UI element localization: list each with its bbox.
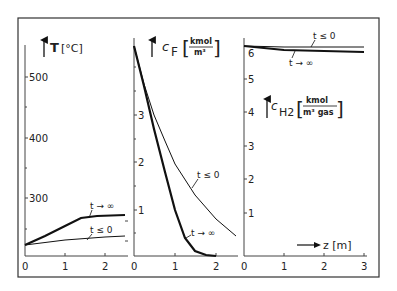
panel-hydrogen-concentration: 6 5 4 3 2 1 0 1 2 3 c H2 [ kmol m³ gas ]… [241,31,367,272]
y-tick-label: 3 [138,110,144,121]
x-tick-label: 2 [213,261,219,272]
label-t-zero: t ≤ 0 [197,170,220,180]
bracket-right: ] [213,36,221,60]
x-tick-label: 3 [361,261,367,272]
y-tick-label: 400 [29,133,48,144]
y-tick-label: 1 [138,205,144,216]
x-tick-label: 1 [62,261,68,272]
x-tick-label: 1 [281,261,287,272]
x-tick-label: 0 [241,261,247,272]
y-tick-label: 3 [248,141,254,152]
y-axis-unit-numerator: kmol [306,96,328,105]
y-tick-label: 6 [248,48,254,59]
y-tick-label: 5 [248,74,254,85]
y-axis-unit-denominator: m³ gas [303,108,334,117]
figure: 500 400 300 0 1 2 T [°C] t → ∞ t ≤ 0 [0,0,397,291]
x-tick-label: 0 [22,261,28,272]
bracket-left: [ [182,36,190,60]
label-t-infinity: t → ∞ [289,58,313,68]
y-tick-label: 300 [29,193,48,204]
label-t-zero: t ≤ 0 [313,31,336,41]
y-axis-subscript: F [171,45,178,59]
y-axis-unit-denominator: m³ [194,48,206,57]
y-tick-label: 500 [29,72,48,83]
y-axis-title: c [162,39,169,54]
y-tick-label: 2 [248,174,254,185]
x-tick-label: 1 [172,261,178,272]
x-tick-label: 2 [321,261,327,272]
bracket-right: ] [336,97,344,121]
panel-fuel-concentration: 3 2 1 0 1 2 c F [ kmol m³ ] t ≤ 0 t → ∞ [125,36,238,272]
curve-t-zero [134,46,236,236]
y-axis-title: c [271,99,278,113]
x-tick-label: 0 [131,261,137,272]
y-axis-title: T [50,40,59,55]
panel-temperature: 500 400 300 0 1 2 T [°C] t → ∞ t ≤ 0 [22,40,128,272]
y-axis-unit-numerator: kmol [190,37,212,46]
y-axis-subscript: H2 [279,106,294,119]
y-tick-label: 4 [248,107,254,118]
y-tick-label: 1 [248,208,254,219]
y-axis-unit: [°C] [61,42,83,55]
label-t-zero: t ≤ 0 [90,225,113,235]
label-t-infinity: t → ∞ [90,201,114,211]
x-axis-title: z [m] [323,239,352,252]
curve-t-infinity [134,46,216,256]
y-tick-label: 2 [138,157,144,168]
x-tick-label: 2 [102,261,108,272]
label-t-infinity: t → ∞ [191,228,215,238]
